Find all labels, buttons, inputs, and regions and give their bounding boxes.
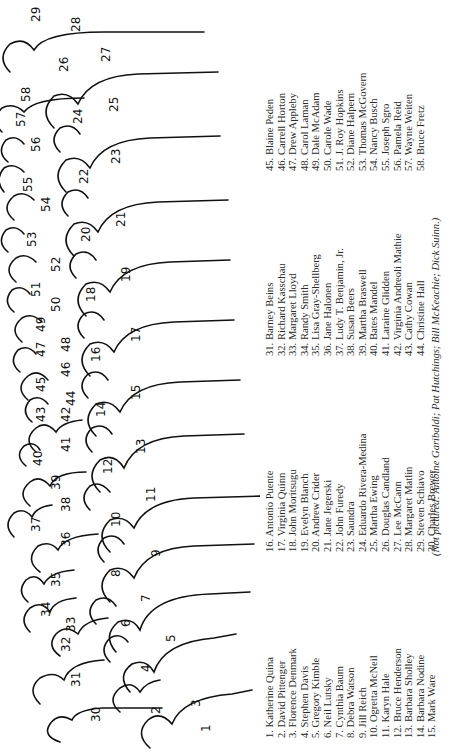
rotated-document-page: 1 2 3 4 5 6 7 8 9 10 11 12 13 14 15 16 1…	[0, 0, 456, 752]
label-21: 21	[114, 212, 128, 227]
list-item: 57. Wayne Weiten	[403, 11, 415, 171]
label-7: 7	[139, 594, 153, 602]
label-14: 14	[94, 402, 108, 417]
label-22: 22	[77, 169, 91, 184]
list-item: 16. Antonio Puente	[264, 356, 276, 552]
name-column-4: 45. Blaine Peden 46. Carrell Horton 47. …	[264, 11, 424, 171]
label-23: 23	[109, 149, 123, 164]
list-item: 33. Margaret Lloyd	[287, 171, 299, 356]
list-item: 35. Lisa Gray-Shellberg	[310, 171, 322, 356]
list-item: 23. Saundra	[345, 356, 357, 552]
label-8: 8	[109, 569, 123, 577]
list-item: 22. John Furedy	[334, 356, 346, 552]
label-13: 13	[134, 439, 148, 454]
list-item: 44. Christine Hall	[415, 171, 427, 356]
name-column-2: 16. Antonio Puente 17. Virginia Quinn 18…	[264, 356, 424, 552]
label-34: 34	[39, 602, 53, 617]
list-item: 15. Mark Ware	[426, 552, 438, 738]
label-43: 43	[34, 407, 48, 422]
list-item: 14. Barbara Nodine	[415, 552, 427, 738]
label-56: 56	[29, 137, 43, 152]
list-item: 48. Carol Laman	[299, 11, 311, 171]
list-item: 6. Neil Lutsky	[322, 552, 334, 738]
label-18: 18	[84, 287, 98, 302]
label-41: 41	[59, 437, 73, 452]
list-item: 31. Barney Beins	[264, 171, 276, 356]
list-item: 50. Carole Wade	[322, 11, 334, 171]
list-item: 38. Susan Beers	[345, 171, 357, 356]
label-45: 45	[34, 377, 48, 392]
label-38: 38	[59, 497, 73, 512]
label-54: 54	[39, 197, 53, 212]
list-item: 20. Andrew Crider	[310, 356, 322, 552]
list-item: 46. Carrell Horton	[276, 11, 288, 171]
label-32: 32	[59, 637, 73, 652]
list-item: 26. Douglas Candland	[380, 356, 392, 552]
label-26: 26	[57, 57, 71, 72]
list-item: 25. Martha Ewing	[368, 356, 380, 552]
list-item: 34. Randy Smith	[299, 171, 311, 356]
list-item: 51. J. Roy Hopkins	[334, 11, 346, 171]
label-33: 33	[64, 617, 78, 632]
list-item: 54. Nancy Busch	[368, 11, 380, 171]
list-item: 43. Cathy Cowan	[403, 171, 415, 356]
list-item: 11. Karyn Hale	[380, 552, 392, 738]
label-46: 46	[59, 362, 73, 377]
list-item: 42. Virginia Andreoli Mathie	[392, 171, 404, 356]
label-27: 27	[99, 47, 113, 62]
silhouette-outlines: 1 2 3 4 5 6 7 8 9 10 11 12 13 14 15 16 1…	[0, 0, 260, 752]
label-6: 6	[119, 619, 133, 627]
list-item: 9. Jill Reich	[357, 552, 369, 738]
label-30: 30	[89, 707, 103, 722]
list-item: 8. Debra Watson	[345, 552, 357, 738]
label-42: 42	[59, 407, 73, 422]
not-pictured-caption: (Not pictured: Antoine Garibaldi; Pat Hu…	[430, 218, 441, 556]
label-29: 29	[29, 7, 43, 22]
list-item: 56. Pamela Reid	[392, 11, 404, 171]
label-50: 50	[49, 297, 63, 312]
label-5: 5	[164, 634, 178, 642]
list-item: 7. Cynthia Baum	[334, 552, 346, 738]
list-item: 13. Barbara Sholley	[403, 552, 415, 738]
label-44: 44	[64, 391, 78, 406]
label-57: 57	[14, 112, 28, 127]
list-item: 27. Lee McCann	[392, 356, 404, 552]
list-item: 24. Eduardo Rivera-Medina	[357, 356, 369, 552]
list-item: 29. Steven Schiavo	[415, 356, 427, 552]
list-item: 1. Katherine Quina	[264, 552, 276, 738]
list-item: 36. Jane Halonen	[322, 171, 334, 356]
label-9: 9	[149, 549, 163, 557]
list-item: 19. Evelyn Blanch	[299, 356, 311, 552]
label-2: 2	[149, 706, 163, 714]
silhouette-key-diagram: 1 2 3 4 5 6 7 8 9 10 11 12 13 14 15 16 1…	[0, 0, 260, 752]
label-17: 17	[129, 327, 143, 342]
label-52: 52	[49, 257, 63, 272]
list-item: 41. Laraine Glidden	[380, 171, 392, 356]
list-item: 40. Bates Mandel	[368, 171, 380, 356]
label-36: 36	[59, 532, 73, 547]
name-column-3: 31. Barney Beins 32. Richard Kasschau 33…	[264, 171, 424, 356]
label-24: 24	[71, 109, 85, 124]
label-53: 53	[25, 232, 39, 247]
list-item: 3. Florence Denmark	[287, 552, 299, 738]
label-25: 25	[107, 97, 121, 112]
label-35: 35	[49, 572, 63, 587]
label-39: 39	[49, 475, 63, 490]
list-item: 18. John Moritsugu	[287, 356, 299, 552]
list-item: 58. Bruce Fretz	[415, 11, 427, 171]
list-item: 2. David Pittenger	[276, 552, 288, 738]
label-10: 10	[109, 512, 123, 527]
label-47: 47	[34, 342, 48, 357]
list-item: 53. Thomas McGovern	[357, 11, 369, 171]
list-item: 37. Ludy T. Benjamin, Jr.	[334, 171, 346, 356]
label-37: 37	[29, 517, 43, 532]
list-item: 49. Dale McAdam	[310, 11, 322, 171]
label-11: 11	[144, 487, 158, 502]
label-19: 19	[119, 267, 133, 282]
label-31: 31	[69, 672, 83, 687]
list-item: 21. Jane Jegerski	[322, 356, 334, 552]
list-item: 10. Ogretta McNeil	[368, 552, 380, 738]
list-item: 5. Gregory Kimble	[310, 552, 322, 738]
list-item: 28. Margaret Matlin	[403, 356, 415, 552]
name-column-1: 1. Katherine Quina 2. David Pittenger 3.…	[264, 552, 424, 738]
